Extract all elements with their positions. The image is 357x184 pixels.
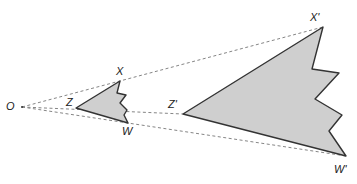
center-point (21, 106, 23, 108)
label-w-prime: W' (334, 164, 346, 175)
dilation-diagram: O X Z W X' Z' W' (0, 0, 357, 184)
large-figure (183, 27, 346, 156)
label-z: Z (66, 97, 73, 108)
label-x: X (116, 66, 123, 77)
label-x-prime: X' (310, 12, 319, 23)
label-z-prime: Z' (168, 99, 177, 110)
label-w: W (122, 126, 132, 137)
label-o: O (6, 101, 15, 112)
diagram-canvas (0, 0, 357, 184)
